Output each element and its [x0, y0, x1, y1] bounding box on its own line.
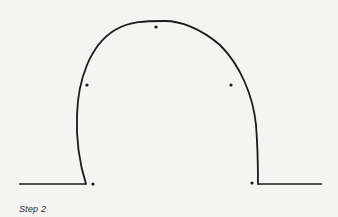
arch-diagram — [0, 0, 338, 217]
figure-caption: Step 2 — [19, 204, 46, 214]
arch-curve — [77, 21, 258, 184]
control-point — [229, 83, 232, 86]
control-point — [91, 182, 94, 185]
control-point — [154, 25, 157, 28]
control-points — [85, 25, 253, 185]
control-point — [85, 83, 88, 86]
control-point — [250, 181, 253, 184]
